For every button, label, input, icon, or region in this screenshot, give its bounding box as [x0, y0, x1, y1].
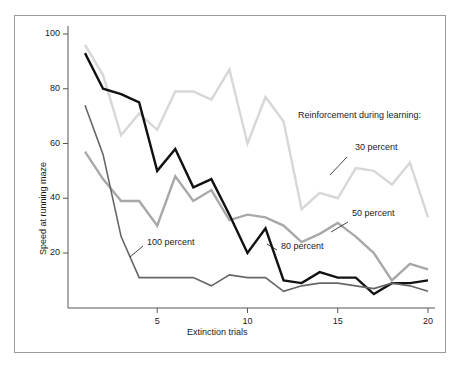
- x-axis-title: Extinction trials: [187, 327, 248, 337]
- series-line-100-percent: [85, 105, 428, 291]
- line-chart: [0, 0, 461, 368]
- series-label-50-percent: 50 percent: [352, 208, 395, 218]
- y-tick-label: 60: [30, 138, 60, 148]
- legend-title: Reinforcement during learning:: [298, 110, 421, 120]
- series-layer: [85, 45, 428, 294]
- y-axis-title: Speed at running maze: [38, 162, 48, 255]
- x-tick-label: 15: [328, 316, 348, 326]
- annotation-leader: [130, 246, 143, 257]
- y-tick-label: 100: [30, 28, 60, 38]
- series-line-30-percent: [85, 45, 428, 217]
- axis-layer: [63, 26, 435, 313]
- series-label-30-percent: 30 percent: [355, 142, 398, 152]
- series-label-100-percent: 100 percent: [147, 237, 195, 247]
- series-label-80-percent: 80 percent: [281, 241, 324, 251]
- x-tick-label: 10: [237, 316, 257, 326]
- x-tick-label: 5: [147, 316, 167, 326]
- y-tick-label: 80: [30, 83, 60, 93]
- y-tick-label: 40: [30, 192, 60, 202]
- annotation-leader: [330, 157, 347, 175]
- x-tick-label: 20: [418, 316, 438, 326]
- y-tick-label: 20: [30, 247, 60, 257]
